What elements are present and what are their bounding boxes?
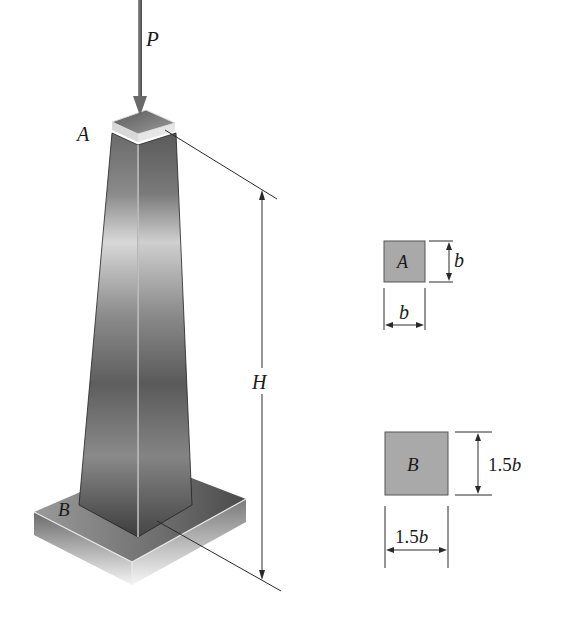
section-b-width-label: 1.5b [395, 526, 428, 547]
arrowhead-up-icon [475, 433, 481, 441]
section-b-width-var: b [419, 526, 429, 547]
arrow-shaft [138, 0, 142, 100]
tapered-column-diagram: P A B H A b b B [0, 0, 562, 618]
section-a-width-label: b [399, 301, 409, 323]
section-b-height-var: b [512, 454, 522, 475]
arrowhead-right-icon [439, 547, 447, 553]
bottom-label: B [58, 499, 70, 520]
top-extension-line [165, 130, 277, 199]
section-a-height-label: b [454, 249, 464, 271]
arrowhead-right-icon [416, 322, 424, 328]
section-a-label: A [396, 252, 409, 272]
section-a [384, 241, 453, 330]
load-arrow [133, 0, 147, 116]
arrowhead-down-icon [446, 273, 452, 281]
section-b-height-label: 1.5b [488, 454, 521, 475]
arrowhead-up-icon [446, 242, 452, 250]
column-left-face [79, 133, 138, 537]
column-right-face [138, 133, 192, 537]
tapered-column [79, 133, 192, 537]
section-b-height-num: 1.5 [488, 454, 512, 475]
arrowhead-down-icon [259, 570, 265, 580]
section-b [385, 432, 492, 568]
arrowhead-left-icon [386, 547, 394, 553]
arrowhead-left-icon [385, 322, 393, 328]
load-label: P [145, 27, 159, 51]
section-b-width-num: 1.5 [395, 526, 419, 547]
top-label: A [75, 123, 90, 145]
height-label: H [251, 371, 268, 393]
arrowhead-down-icon [475, 486, 481, 494]
section-b-label: B [407, 454, 419, 475]
